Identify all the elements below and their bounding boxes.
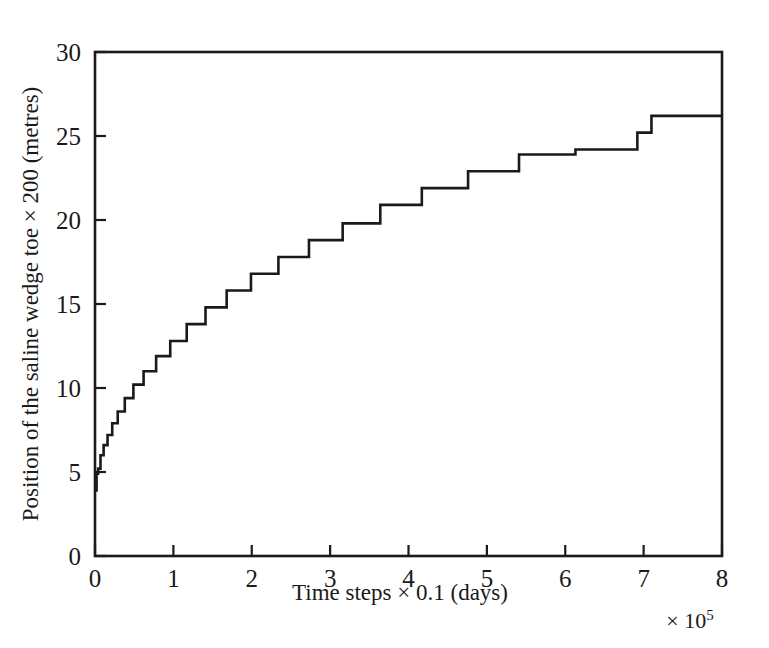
plot-frame bbox=[95, 52, 722, 556]
y-tick-label: 15 bbox=[56, 291, 81, 318]
x-tick-label: 1 bbox=[167, 565, 180, 592]
x-tick-label: 2 bbox=[246, 565, 259, 592]
y-tick-label: 20 bbox=[56, 207, 81, 234]
y-tick-label: 5 bbox=[69, 459, 82, 486]
chart-figure: 051015202530 012345678 Time steps × 0.1 … bbox=[0, 0, 769, 648]
exponent-base: × 10 bbox=[666, 608, 706, 633]
x-tick-label: 7 bbox=[637, 565, 650, 592]
y-axis-title: Position of the saline wedge toe × 200 (… bbox=[18, 87, 43, 522]
y-tick-label: 30 bbox=[56, 39, 81, 66]
saline-wedge-step-curve bbox=[95, 116, 722, 491]
x-tick-label: 6 bbox=[559, 565, 572, 592]
exponent-power: 5 bbox=[706, 607, 714, 623]
x-tick-label: 0 bbox=[89, 565, 102, 592]
y-axis-tick-labels: 051015202530 bbox=[56, 39, 81, 570]
x-axis-exponent-label: × 105 bbox=[666, 607, 713, 633]
chart-canvas: 051015202530 012345678 Time steps × 0.1 … bbox=[0, 0, 769, 648]
x-tick-label: 8 bbox=[716, 565, 729, 592]
y-tick-label: 25 bbox=[56, 123, 81, 150]
x-axis-title: Time steps × 0.1 (days) bbox=[292, 580, 508, 605]
x-axis-ticks bbox=[95, 545, 722, 556]
y-tick-label: 10 bbox=[56, 375, 81, 402]
y-tick-label: 0 bbox=[69, 543, 82, 570]
